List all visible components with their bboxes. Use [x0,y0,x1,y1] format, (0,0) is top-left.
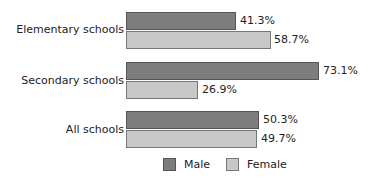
legend-item-male: Male [163,158,210,171]
value-secondary-male: 73.1% [323,64,358,78]
value-secondary-female: 26.9% [202,83,237,97]
legend-label-male: Male [184,158,210,171]
value-elementary-male: 41.3% [240,14,275,28]
value-all-female: 49.7% [261,132,296,146]
bar-elementary-female [126,31,271,49]
category-label-elementary: Elementary schools [16,23,124,37]
bar-chart: Elementary schools 41.3% 58.7% Secondary… [0,0,374,184]
value-all-male: 50.3% [263,113,298,127]
bar-all-female [126,130,257,148]
category-label-all: All schools [66,123,124,137]
bar-elementary-male [126,12,236,30]
female-swatch-icon [226,158,239,171]
bar-secondary-male [126,62,319,80]
legend: Male Female [163,158,303,171]
bar-secondary-female [126,81,198,99]
legend-item-female: Female [226,158,287,171]
male-swatch-icon [163,158,176,171]
bar-all-male [126,111,259,129]
value-elementary-female: 58.7% [274,33,309,47]
category-label-secondary: Secondary schools [21,74,124,88]
legend-label-female: Female [247,158,287,171]
